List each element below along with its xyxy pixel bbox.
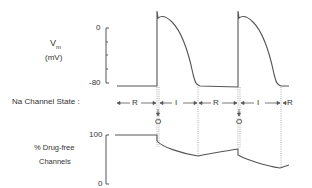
drug-free-label-1: % Drug-free <box>34 144 74 152</box>
vm-tick-neg80: -80 <box>89 79 101 87</box>
drug-free-axis <box>106 135 109 184</box>
open-marker-1: O <box>155 118 161 126</box>
na-state-label: Na Channel State : <box>12 98 80 106</box>
drug-tick-0: 0 <box>98 180 102 188</box>
vm-sub: m <box>56 44 61 50</box>
action-potential-trace <box>117 11 289 87</box>
state-r-2: R <box>213 99 219 107</box>
vm-tick-0: 0 <box>96 24 100 32</box>
drug-tick-100: 100 <box>89 131 102 139</box>
drug-free-label-2: Channels <box>39 158 71 166</box>
vm-axis <box>106 28 109 83</box>
state-r-1: R <box>132 99 138 107</box>
state-i-1: I <box>175 99 177 107</box>
drug-free-trace <box>115 135 289 168</box>
vm-unit-label: (mV) <box>45 54 62 62</box>
state-i-2: I <box>257 99 259 107</box>
open-marker-2: O <box>236 118 242 126</box>
state-r-3: R <box>287 99 293 107</box>
state-arrows <box>117 102 286 117</box>
vm-axis-label: Vm <box>50 39 61 50</box>
